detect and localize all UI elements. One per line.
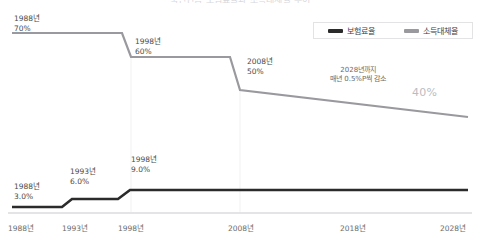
chart-container: 국민연금 보험료율과 소득대체율 추이 보험료율 소득대체율 1988년 70%… — [0, 0, 480, 250]
x-tick-2018: 2018년 — [340, 222, 366, 233]
annotation-premium-1988-year: 1988년 — [14, 182, 40, 192]
annotation-decline-note: 2028년까지 매년 0.5%P씩 감소 — [330, 66, 386, 84]
legend-label-insurance-rate: 보험료율 — [347, 25, 375, 36]
chart-legend: 보험료율 소득대체율 — [313, 22, 473, 39]
x-tick-1993: 1993년 — [62, 222, 88, 233]
legend-item-insurance-rate: 보험료율 — [328, 25, 375, 36]
annotation-premium-1988-value: 3.0% — [14, 192, 40, 202]
x-tick-2008: 2008년 — [228, 222, 254, 233]
legend-item-income-replacement-rate: 소득대체율 — [404, 25, 458, 36]
annotation-premium-1998-year: 1998년 — [131, 155, 157, 165]
annotation-decline-note-line1: 2028년까지 — [330, 66, 386, 75]
annotation-premium-1993-year: 1993년 — [70, 167, 96, 177]
annotation-premium-1993-value: 6.0% — [70, 177, 96, 187]
annotation-replacement-2008-year: 2008년 — [247, 57, 273, 67]
annotation-premium-1998-value: 9.0% — [131, 165, 157, 175]
x-tick-1998: 1998년 — [118, 222, 144, 233]
legend-swatch-icon-insurance-rate — [328, 29, 343, 33]
annotation-premium-1998: 1998년 9.0% — [131, 155, 157, 174]
annotation-replacement-2008: 2008년 50% — [247, 57, 273, 76]
legend-label-income-replacement-rate: 소득대체율 — [423, 25, 458, 36]
annotation-replacement-1998: 1998년 60% — [135, 37, 161, 56]
annotation-replacement-1988-value: 70% — [14, 24, 40, 34]
annotation-replacement-1998-year: 1998년 — [135, 37, 161, 47]
annotation-replacement-2028-value: 40% — [412, 86, 437, 99]
legend-swatch-icon-income-replacement-rate — [404, 29, 419, 33]
x-axis-tick-labels: 1988년 1993년 1998년 2008년 2018년 2028년 — [0, 222, 480, 234]
annotation-replacement-1988-year: 1988년 — [14, 14, 40, 24]
x-tick-1988: 1988년 — [8, 222, 34, 233]
annotation-replacement-1998-value: 60% — [135, 47, 161, 57]
annotation-replacement-1988: 1988년 70% — [14, 14, 40, 33]
annotation-premium-1988: 1988년 3.0% — [14, 182, 40, 201]
annotation-premium-1993: 1993년 6.0% — [70, 167, 96, 186]
x-tick-2028: 2028년 — [440, 222, 466, 233]
annotation-replacement-2008-value: 50% — [247, 67, 273, 77]
annotation-decline-note-line2: 매년 0.5%P씩 감소 — [330, 75, 386, 84]
